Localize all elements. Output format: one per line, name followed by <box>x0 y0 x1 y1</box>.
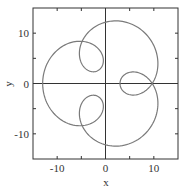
x-tick-label: 0 <box>103 162 109 174</box>
chart: -10010-10010 x y <box>0 0 185 193</box>
x-tick-label: 10 <box>148 162 160 174</box>
plot-area: -10010-10010 <box>14 8 178 174</box>
y-axis-label: y <box>2 81 14 87</box>
y-tick-label: -10 <box>14 128 29 140</box>
x-tick-label: -10 <box>50 162 65 174</box>
y-tick-label: 0 <box>24 78 30 90</box>
x-axis-label: x <box>103 176 109 188</box>
y-tick-label: 10 <box>18 27 30 39</box>
